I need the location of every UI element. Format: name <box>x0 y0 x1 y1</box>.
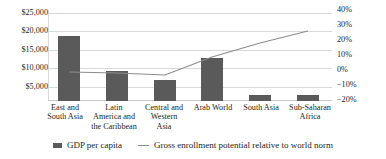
y-axis-left-tick: $5,000 <box>4 83 48 91</box>
line-series-gross-enrollment-potential <box>48 10 332 101</box>
x-axis-label-line: Sub-Saharan <box>278 103 342 112</box>
plot-area <box>48 10 332 101</box>
y-axis-left-tick: $25,000 <box>4 9 48 17</box>
x-axis-label-line: Western <box>136 112 192 121</box>
legend-item-gross-enrollment-potential: Gross enrollment potential relative to w… <box>138 140 333 150</box>
y-axis-left-tick: $15,000 <box>4 46 48 54</box>
chart-container: $25,000 $20,000 $15,000 $10,000 $5,000 4… <box>0 0 386 159</box>
y-axis-right-tick: −10% <box>337 81 383 89</box>
x-axis-label-line: Asia <box>136 122 192 131</box>
legend-bar-swatch-icon <box>53 143 62 148</box>
y-axis-right-tick: 20% <box>337 36 383 44</box>
y-axis-right-tick: 10% <box>337 51 383 59</box>
chart-legend: GDP per capita Gross enrollment potentia… <box>0 140 386 150</box>
y-axis-right-tick: 40% <box>337 6 383 14</box>
legend-item-gdp-per-capita: GDP per capita <box>53 140 122 150</box>
y-axis-left-tick: $20,000 <box>4 27 48 35</box>
x-axis-label-sub-saharan-africa: Sub-Saharan Africa <box>278 103 342 122</box>
legend-label: GDP per capita <box>67 140 122 150</box>
y-axis-left-tick: $10,000 <box>4 64 48 72</box>
y-axis-right-tick: 0% <box>337 66 383 74</box>
legend-line-swatch-icon <box>138 145 149 146</box>
y-axis-right-tick: 30% <box>337 21 383 29</box>
legend-label: Gross enrollment potential relative to w… <box>154 140 333 150</box>
x-axis-label-line: Africa <box>278 112 342 121</box>
y-axis-right-tick: −20% <box>337 96 383 104</box>
